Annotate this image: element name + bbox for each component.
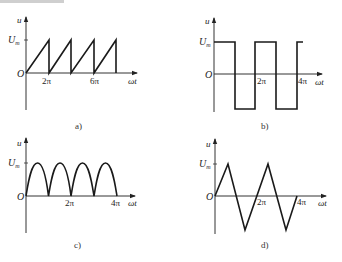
x-axis-label: ωt bbox=[318, 198, 327, 208]
waveform-figure: u Um O ωt 2π 6π a) u Um O ωt 2π 4π b) u … bbox=[0, 0, 342, 262]
caption-c: c) bbox=[74, 240, 81, 250]
x-axis-label: ωt bbox=[315, 77, 324, 87]
origin-label: O bbox=[205, 69, 212, 80]
y-axis-label: u bbox=[205, 16, 210, 26]
tick-label-6pi: 6π bbox=[90, 76, 100, 86]
tick-label-4pi: 4π bbox=[298, 76, 308, 86]
origin-label: O bbox=[17, 191, 24, 202]
y-axis-label: u bbox=[206, 139, 211, 149]
caption-b: b) bbox=[261, 121, 269, 131]
tick-label-4pi: 4π bbox=[111, 198, 121, 208]
panel-d: u Um O ωt 2π 4π d) bbox=[199, 139, 327, 250]
panel-a: u Um O ωt 2π 6π a) bbox=[8, 15, 137, 131]
tick-label-4pi: 4π bbox=[297, 197, 307, 207]
panel-b: u Um O ωt 2π 4π b) bbox=[199, 16, 324, 131]
um-label: Um bbox=[8, 34, 20, 46]
sawtooth-wave bbox=[26, 40, 116, 73]
x-axis-label: ωt bbox=[128, 198, 137, 208]
triangle-wave bbox=[215, 164, 297, 230]
um-label: Um bbox=[8, 157, 20, 169]
cropped-text-remnant bbox=[0, 0, 64, 3]
panel-c: u Um O ωt 2π 4π c) bbox=[8, 138, 137, 250]
tick-label-2pi: 2π bbox=[65, 198, 75, 208]
um-label: Um bbox=[199, 158, 211, 170]
origin-label: O bbox=[206, 191, 213, 202]
y-axis-label: u bbox=[17, 15, 22, 25]
y-axis-label: u bbox=[17, 138, 22, 148]
tick-label-2pi: 2π bbox=[257, 197, 267, 207]
caption-d: d) bbox=[261, 240, 269, 250]
tick-label-2pi: 2π bbox=[42, 76, 52, 86]
x-axis-label: ωt bbox=[128, 76, 137, 86]
um-label: Um bbox=[199, 36, 211, 48]
caption-a: a) bbox=[75, 121, 82, 131]
rectified-sine-wave bbox=[26, 163, 117, 196]
origin-label: O bbox=[17, 68, 24, 79]
tick-label-2pi: 2π bbox=[257, 76, 267, 86]
